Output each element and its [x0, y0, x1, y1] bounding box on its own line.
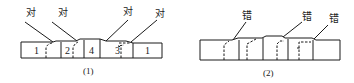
panel-caption: (1) — [83, 66, 94, 76]
bevel-dashed — [247, 39, 256, 60]
panel-1: 1 2 4 3 1 对 对 对 对 (1) — [21, 5, 165, 76]
block-number: 2 — [65, 45, 70, 56]
bevel-dashed — [73, 42, 78, 58]
panel-2: 错 错 错 (2) — [200, 9, 340, 78]
block-3-top — [262, 36, 282, 38]
leader-line — [25, 22, 53, 42]
bevel-dashed — [277, 41, 284, 60]
bevel-dashed — [224, 41, 229, 60]
callout-wrong: 错 — [329, 12, 339, 24]
leader-line — [106, 20, 128, 41]
block-number: 3 — [115, 45, 120, 56]
callout-correct: 对 — [26, 6, 36, 18]
weld-sequence-diagram: 1 2 4 3 1 对 对 对 对 (1) — [0, 0, 354, 83]
bevel-dashed — [46, 43, 52, 58]
block-4-top — [282, 36, 312, 38]
callout-wrong: 错 — [242, 9, 252, 21]
block-2-top — [53, 41, 76, 42]
panel-caption: (2) — [263, 68, 274, 78]
block-right-outline — [312, 38, 340, 60]
leader-line — [314, 25, 328, 39]
leader-line — [52, 22, 77, 41]
callout-correct: 对 — [58, 6, 68, 18]
block-3-top — [100, 39, 126, 41]
block-number: 4 — [89, 45, 94, 56]
callout-correct: 对 — [123, 5, 133, 17]
block-left-outline — [200, 40, 232, 60]
callout-correct: 对 — [155, 7, 165, 19]
leader-line — [131, 20, 157, 42]
block-1-right-outline — [126, 41, 162, 58]
block-2-top — [232, 38, 262, 40]
leader-line — [233, 22, 246, 40]
panel-2-blocks — [200, 36, 340, 60]
block-4-top — [76, 39, 100, 41]
block-number: 1 — [145, 45, 150, 56]
block-number: 1 — [34, 45, 39, 56]
callout-wrong: 错 — [302, 10, 312, 22]
bevel-dashed — [299, 42, 311, 60]
leader-line — [283, 22, 302, 37]
